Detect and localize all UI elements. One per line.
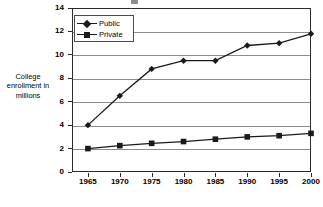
data-point-private	[213, 136, 219, 142]
data-point-private	[308, 131, 314, 137]
x-tick-mark	[215, 173, 216, 177]
y-tick-label: 6	[44, 98, 64, 106]
x-tick-mark	[152, 173, 153, 177]
x-tick-mark	[311, 173, 312, 177]
y-tick-label: 10	[44, 51, 64, 59]
line-chart: College enrollment in millions 024681012…	[0, 0, 323, 207]
y-tick-label: 12	[44, 27, 64, 35]
data-point-public	[212, 58, 218, 64]
y-axis-title-line-2: enrollment in	[0, 81, 56, 90]
legend-label-private: Private	[97, 30, 123, 39]
x-tick-mark	[279, 173, 280, 177]
x-tick-label: 2000	[291, 178, 323, 186]
data-point-private	[85, 146, 91, 152]
data-point-private	[244, 134, 250, 140]
data-point-private	[181, 139, 187, 145]
legend-entry-private: Private	[75, 29, 133, 40]
diamond-marker-icon	[77, 18, 97, 29]
legend-entry-public: Public	[75, 18, 133, 29]
y-tick-label: 4	[44, 121, 64, 129]
y-tick-label: 8	[44, 74, 64, 82]
x-tick-mark	[247, 173, 248, 177]
y-tick-label: 0	[44, 168, 64, 176]
x-tick-mark	[88, 173, 89, 177]
data-point-private	[276, 133, 282, 139]
series-line-public	[88, 34, 311, 125]
y-tick-label: 14	[44, 4, 64, 12]
square-marker-icon	[77, 29, 97, 40]
data-point-public	[244, 42, 250, 48]
x-tick-mark	[120, 173, 121, 177]
cropped-title-remnant	[131, 0, 138, 4]
data-point-public	[276, 40, 282, 46]
data-point-public	[180, 58, 186, 64]
y-tick-label: 2	[44, 145, 64, 153]
data-point-public	[308, 31, 314, 37]
data-point-private	[149, 141, 155, 147]
chart-legend: Public Private	[74, 15, 134, 42]
legend-label-public: Public	[97, 19, 120, 28]
data-point-private	[117, 143, 123, 149]
x-tick-mark	[184, 173, 185, 177]
